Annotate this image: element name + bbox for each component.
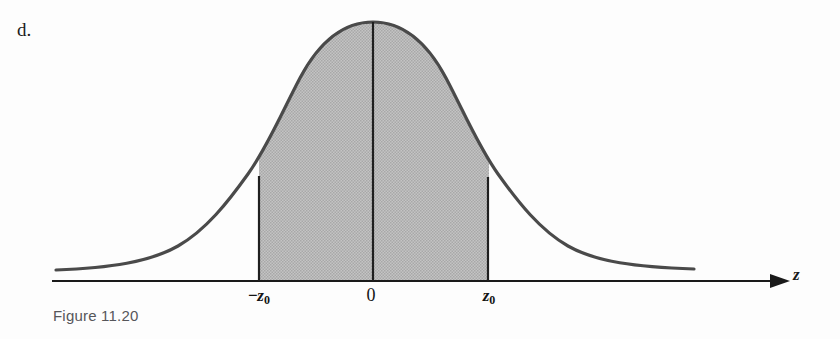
tick-label-lower: −z0 xyxy=(248,286,270,306)
axis-variable-label: z xyxy=(793,266,800,283)
tick-symbol-lower: z xyxy=(257,286,264,305)
tick-label-center: 0 xyxy=(367,286,376,304)
figure-caption: Figure 11.20 xyxy=(53,307,139,325)
tick-label-upper: z0 xyxy=(483,286,496,306)
normal-distribution-figure xyxy=(0,0,840,339)
tick-subscript-upper: 0 xyxy=(489,293,495,307)
tick-subscript-lower: 0 xyxy=(264,293,270,307)
tick-symbol-upper: z xyxy=(483,286,490,305)
axis-arrowhead-icon xyxy=(770,274,790,288)
tick-symbol-center: 0 xyxy=(367,285,376,305)
figure-page: d. z −z0 0 xyxy=(0,0,840,339)
minus-sign-icon: − xyxy=(248,286,257,305)
shaded-central-area xyxy=(56,21,694,280)
